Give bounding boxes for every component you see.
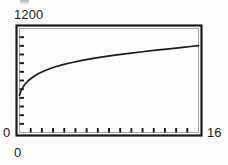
data-series-curve [20, 46, 199, 96]
axes-box [17, 26, 202, 136]
y-axis-ticks [20, 37, 25, 124]
plot-area [0, 0, 228, 165]
axes-box-inner [20, 29, 199, 133]
chart-figure: 1200 0 0 16 [0, 0, 228, 165]
plot-frame [17, 26, 202, 136]
x-axis-ticks [31, 128, 188, 133]
